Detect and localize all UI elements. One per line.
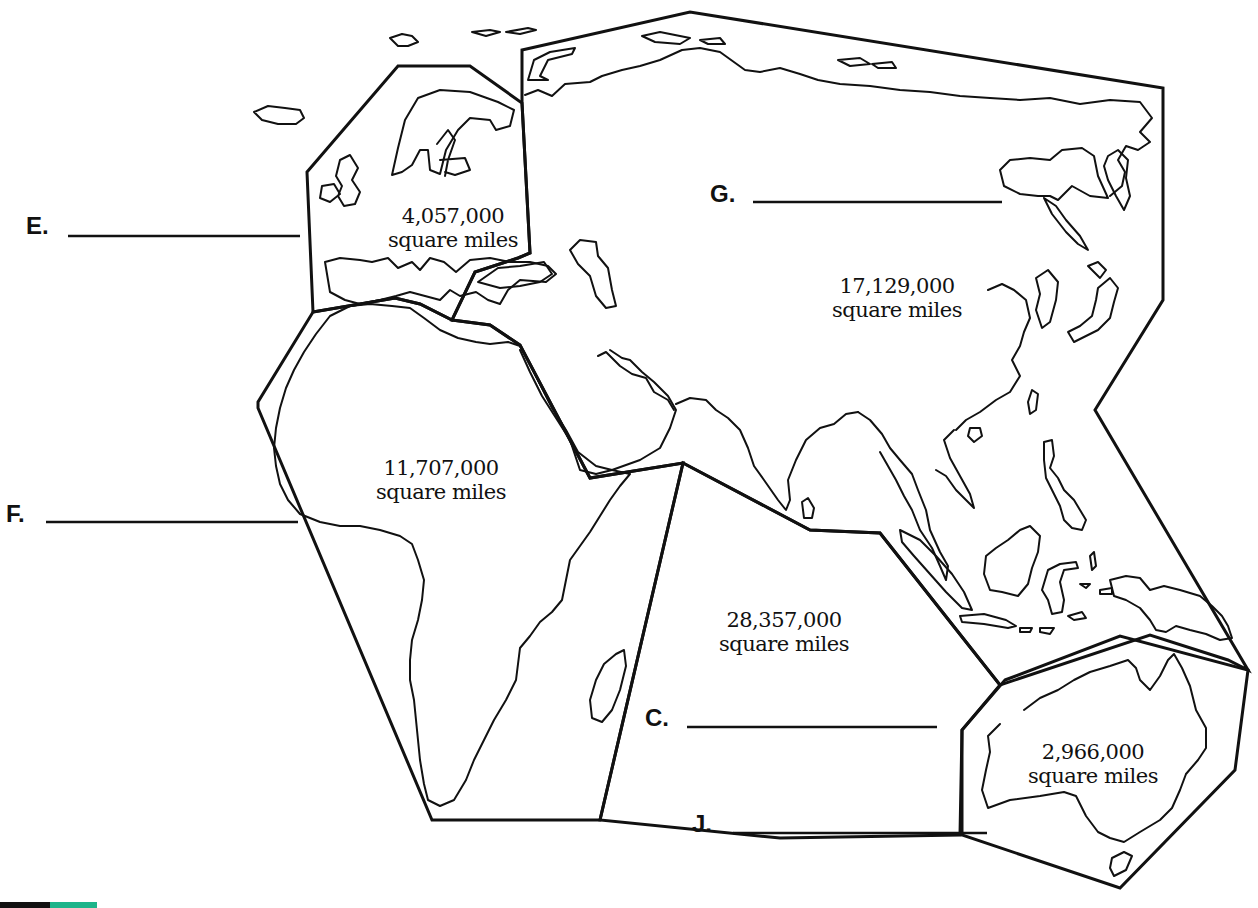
label-j: J.	[692, 810, 712, 838]
kamchatka-outline	[1104, 150, 1130, 210]
area-label-africa: 11,707,000 square miles	[376, 456, 506, 504]
iceland-outline	[254, 106, 304, 124]
korea-outline	[1036, 270, 1058, 328]
scandinavia-outline	[392, 90, 514, 175]
label-c: C.	[645, 704, 669, 732]
tasmania-outline	[1110, 852, 1132, 876]
area-value-australia: 2,966,000	[1028, 740, 1158, 764]
area-label-europe: 4,057,000 square miles	[388, 204, 518, 252]
british-isles-outline	[320, 155, 360, 206]
area-unit-australia: square miles	[1028, 764, 1158, 788]
arctic-islands-outline	[390, 28, 536, 46]
area-value-indian-ocean: 28,357,000	[719, 608, 849, 632]
hainan-outline	[968, 428, 982, 442]
java-outline	[960, 614, 1054, 634]
area-label-australia: 2,966,000 square miles	[1028, 740, 1158, 788]
area-label-asia: 17,129,000 square miles	[832, 274, 962, 322]
indochina-outline	[858, 412, 974, 580]
area-unit-asia: square miles	[832, 298, 962, 322]
answer-input-e[interactable]	[70, 210, 302, 234]
answer-input-f[interactable]	[48, 496, 300, 520]
asia-region-boundary	[452, 12, 1248, 685]
area-unit-europe: square miles	[388, 228, 518, 252]
sulawesi-outline	[1042, 562, 1078, 614]
area-value-europe: 4,057,000	[388, 204, 518, 228]
area-unit-indian-ocean: square miles	[719, 632, 849, 656]
china-coast-outline	[956, 284, 1030, 430]
new-guinea-outline	[1110, 576, 1232, 640]
area-label-indian-ocean: 28,357,000 square miles	[719, 608, 849, 656]
sakhalin-outline	[1044, 198, 1088, 250]
persian-gulf-outline	[598, 352, 674, 410]
area-unit-africa: square miles	[376, 480, 506, 504]
philippines-outline	[1044, 440, 1086, 530]
answer-input-c[interactable]	[689, 701, 939, 725]
area-value-asia: 17,129,000	[832, 274, 962, 298]
answer-input-g[interactable]	[755, 176, 1004, 200]
brand-bar-green	[50, 902, 97, 908]
brand-bar-dark	[0, 902, 50, 908]
okhotsk-coast-outline	[1000, 148, 1108, 200]
label-f: F.	[6, 500, 25, 528]
india-outline	[676, 398, 858, 510]
answer-input-j[interactable]	[735, 807, 989, 831]
novaya-zemlya-outline	[528, 48, 575, 80]
label-e: E.	[26, 212, 49, 240]
madagascar-outline	[590, 650, 626, 722]
sri-lanka-outline	[802, 498, 814, 518]
label-g: G.	[710, 180, 735, 208]
taiwan-outline	[1028, 390, 1038, 414]
arabian-peninsula-outline	[520, 350, 676, 474]
area-value-africa: 11,707,000	[376, 456, 506, 480]
africa-outline	[274, 304, 630, 806]
caspian-sea-outline	[570, 240, 616, 308]
japan-outline	[1068, 262, 1118, 342]
borneo-outline	[984, 526, 1040, 596]
